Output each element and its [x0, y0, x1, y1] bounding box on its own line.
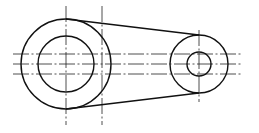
lower-tangent-line [66, 93, 199, 109]
centerlines [13, 6, 243, 125]
upper-tangent-line [66, 19, 199, 35]
technical-drawing [0, 0, 259, 133]
